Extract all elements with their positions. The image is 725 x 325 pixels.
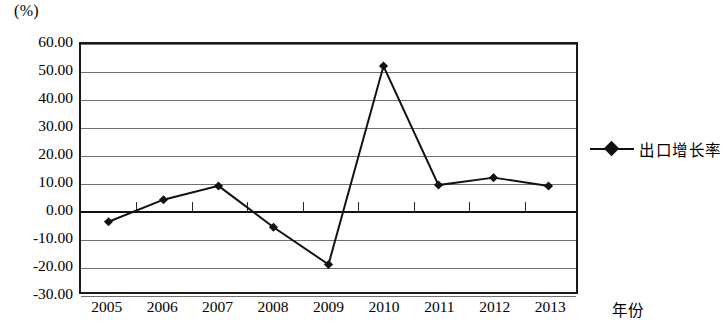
data-point-marker	[379, 62, 388, 71]
x-axis-tick-labels: 200520062007200820092010201120122013	[79, 298, 578, 322]
data-point-marker	[434, 181, 443, 190]
gridline	[81, 296, 576, 297]
y-axis-tick-label: -10.00	[33, 229, 73, 247]
x-axis-tick-label: 2012	[479, 298, 510, 316]
y-axis-tick-label: -20.00	[33, 257, 73, 275]
data-point-marker	[544, 181, 553, 190]
y-axis-tick-label: 50.00	[38, 61, 73, 79]
y-axis-tick-label: 10.00	[38, 173, 73, 191]
x-axis-tick-label: 2010	[368, 298, 399, 316]
x-axis-title: 年份	[612, 298, 644, 320]
legend-diamond-line-icon	[590, 142, 634, 156]
x-axis-tick-label: 2007	[202, 298, 233, 316]
x-axis-tick-label: 2013	[535, 298, 566, 316]
y-axis-tick-label: 60.00	[38, 33, 73, 51]
export-growth-rate-chart: (%) 60.0050.0040.0030.0020.0010.000.00-1…	[0, 0, 725, 325]
x-axis-tick-label: 2011	[424, 298, 454, 316]
data-point-marker	[489, 173, 498, 182]
y-axis-tick-label: 20.00	[38, 145, 73, 163]
plot-area	[79, 42, 578, 294]
y-axis-tick-label: -30.00	[33, 285, 73, 303]
data-point-marker	[159, 195, 168, 204]
series-line	[108, 66, 548, 264]
chart-legend: 出口增长率	[590, 138, 722, 160]
series-layer	[81, 44, 576, 292]
x-axis-tick-label: 2005	[91, 298, 122, 316]
y-axis-tick-label: 40.00	[38, 89, 73, 107]
y-axis-tick-label: 30.00	[38, 117, 73, 135]
x-axis-tick-label: 2009	[313, 298, 344, 316]
x-axis-tick-label: 2006	[147, 298, 178, 316]
x-axis-tick-label: 2008	[258, 298, 289, 316]
y-axis-unit-label: (%)	[14, 2, 39, 20]
y-axis-tick-label: 0.00	[46, 201, 73, 219]
y-axis-tick-labels: 60.0050.0040.0030.0020.0010.000.00-10.00…	[0, 42, 73, 294]
data-point-marker	[104, 217, 113, 226]
legend-label-export-growth-rate: 出口增长率	[639, 138, 722, 160]
